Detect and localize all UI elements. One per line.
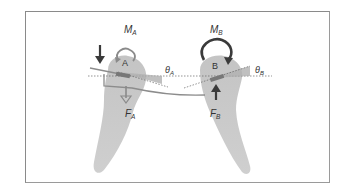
bracket-a-label: A <box>122 58 128 68</box>
moment-b-label: MB <box>210 24 223 36</box>
angle-b-label: θB <box>255 65 264 76</box>
moment-a-label: MA <box>124 24 137 36</box>
angle-a-label: θA <box>165 65 174 76</box>
tooth-force-diagram: MA MB A B θA θB FA FB <box>0 0 346 193</box>
bracket-b-label: B <box>212 61 218 71</box>
force-a-label: FA <box>125 108 135 120</box>
applied-force-arrow-icon <box>95 45 105 64</box>
